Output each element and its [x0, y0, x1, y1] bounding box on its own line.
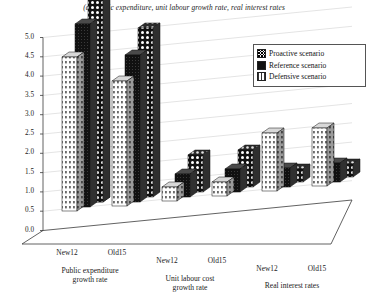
legend-label-proactive: Proactive scenario [269, 49, 324, 58]
group-label-real-interest-rates-line1: Real interest rates [232, 281, 352, 290]
sub-label-unitlabour-new12: New12 [145, 256, 189, 265]
legend-swatch-proactive-icon [257, 49, 266, 58]
y-tick-3.5: 3.5 [10, 92, 34, 99]
bar-defensive-unitlabour-old15 [212, 177, 234, 196]
y-tick-3.0: 3.0 [10, 111, 34, 118]
legend-label-defensive: Defensive scenario [269, 72, 326, 81]
legend-item-reference: Reference scenario [257, 60, 361, 72]
sub-label-unitlabour-old15: Old15 [195, 256, 239, 265]
y-tick-2.0: 2.0 [10, 149, 34, 156]
y-tick-0.0: 0.0 [10, 227, 34, 234]
y-axis-ticks [40, 38, 43, 231]
chart-legend: Proactive scenario Reference scenario De… [253, 44, 366, 87]
figure-panel: (a) Public expenditure, unit labour grow… [0, 0, 368, 301]
y-tick-1.0: 1.0 [10, 188, 34, 195]
legend-swatch-reference-icon [257, 61, 266, 70]
sub-label-realinterest-new12: New12 [245, 264, 289, 273]
legend-item-defensive: Defensive scenario [257, 71, 361, 83]
bar-defensive-unitlabour-new12 [162, 182, 184, 201]
y-tick-2.5: 2.5 [10, 130, 34, 137]
y-tick-0.5: 0.5 [10, 207, 34, 214]
bar-defensive-realinterest-old15 [312, 123, 334, 186]
group-label-real-interest-rates: Real interest rates [232, 281, 352, 290]
legend-swatch-defensive-icon [257, 72, 266, 81]
bar-defensive-public-new12 [62, 52, 84, 211]
y-tick-4.0: 4.0 [10, 72, 34, 79]
sub-label-public-old15: Old15 [95, 248, 139, 257]
y-tick-4.5: 4.5 [10, 53, 34, 60]
sub-label-public-new12: New12 [45, 248, 89, 257]
legend-item-proactive: Proactive scenario [257, 48, 361, 60]
y-tick-1.5: 1.5 [10, 169, 34, 176]
sub-label-realinterest-old15: Old15 [295, 264, 339, 273]
legend-label-reference: Reference scenario [269, 61, 326, 70]
bar-defensive-realinterest-new12 [262, 128, 284, 191]
bar-defensive-public-old15 [112, 76, 134, 206]
y-tick-5.0: 5.0 [10, 34, 34, 41]
